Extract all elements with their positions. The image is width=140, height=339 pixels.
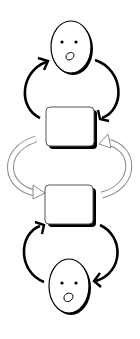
face-top xyxy=(51,21,93,75)
mouth-icon xyxy=(64,293,73,301)
mouth-icon xyxy=(66,53,74,60)
hollow-arrow-right xyxy=(99,134,129,195)
eye-icon xyxy=(74,40,77,43)
arrow-box-bottom-to-face-bottom xyxy=(94,225,118,287)
eye-icon xyxy=(60,281,63,284)
arrow-box-top-to-face-top xyxy=(25,58,48,118)
face-bottom xyxy=(49,259,91,315)
box-bottom xyxy=(45,185,96,227)
eye-icon xyxy=(74,281,77,284)
hollow-arrow-left xyxy=(10,139,45,199)
diagram-canvas xyxy=(0,0,140,339)
arrow-face-bottom-to-box-bottom xyxy=(24,222,44,282)
eye-icon xyxy=(60,40,63,43)
arrow-face-top-to-box-top xyxy=(95,60,118,121)
box-top xyxy=(46,107,97,149)
diagram-svg xyxy=(0,0,140,339)
